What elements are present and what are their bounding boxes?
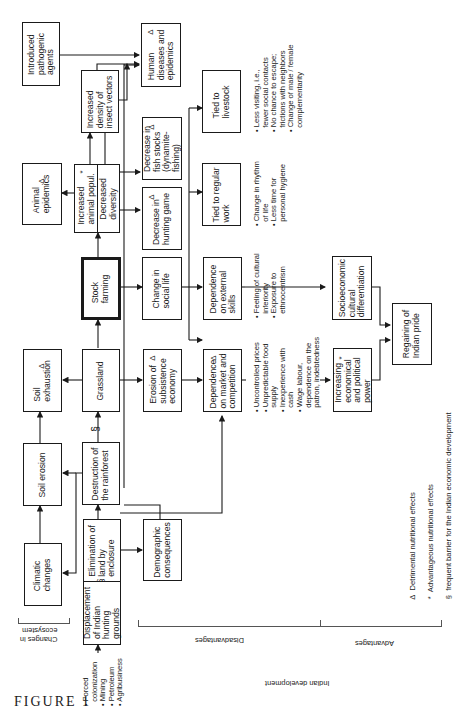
market-effects-note: • Uncontrolled prices • Unpredictable fo… (253, 337, 322, 412)
barrier-symbol-icon: § (444, 595, 453, 599)
node-displacement-hunting-grounds: Displacement of Indian hunting grounds (83, 581, 121, 645)
changes-in-ecosystem-label: Changes in ecosystem (20, 626, 57, 643)
node-dependence-market-competition: Dependence on market and competition Δ (203, 349, 242, 412)
node-soil-erosion: Soil erosion (23, 443, 62, 506)
detrimental-delta-icon: Δ (210, 355, 218, 360)
node-tied-to-regular-work: Tied to regular work (202, 163, 241, 226)
advantageous-star-icon: * (338, 356, 346, 359)
detrimental-delta-icon: Δ (149, 355, 157, 360)
node-soil-exhaustion: Soil exhaustion Δ (23, 349, 62, 412)
node-stock-farming: Stock farming (81, 257, 121, 320)
node-increased-animal-popul: Increased animal popul. * (74, 164, 98, 233)
node-change-social-life: Change in social life (142, 257, 182, 320)
node-tied-to-livestock: Tied to livestock (202, 70, 241, 133)
node-human-diseases-epidemics: Human diseases and epidemics Δ (141, 23, 181, 87)
node-increasing-economical-political-power: Increasing economical and political powe… (333, 348, 372, 412)
node-animal-epidemics: Animal epidemics Δ (22, 163, 62, 225)
bracket-tick (138, 620, 139, 627)
legend-item-barrier: § frequent barrier for the Indian econom… (436, 412, 462, 612)
node-climatic-changes: Climatic changes (24, 543, 62, 606)
node-elimination-land-enclosure: Elimination of land by enclosure (83, 519, 121, 581)
figure-label: FIGURE 1 (14, 694, 91, 709)
regular-work-effects-note: • Change in rhythm of life • Less time f… (253, 161, 287, 226)
detrimental-delta-icon: Δ (38, 363, 46, 368)
indian-development-bracket (138, 626, 442, 627)
detrimental-delta-icon: Δ (38, 178, 46, 183)
indian-development-label: Indian development (265, 679, 330, 688)
bracket-tick (320, 620, 321, 627)
detrimental-delta-icon: Δ (148, 124, 156, 129)
advantages-label: Advantages (355, 639, 394, 648)
bracket-tick (18, 618, 19, 624)
star-icon: * (426, 596, 435, 599)
bracket-tick (441, 620, 442, 627)
node-grassland: Grassland (82, 349, 120, 412)
barrier-symbol-icon: § (92, 426, 100, 432)
node-decreased-diversity: Decreased diversity (97, 164, 120, 233)
node-regaining-indian-pride: Regaining of Indian pride (392, 303, 432, 365)
node-decrease-fish-stocks: Decrease in fish stocks (dynamite- fishi… (142, 117, 182, 180)
node-dependence-external-skills: Dependence on external skills (203, 257, 242, 320)
external-skills-effects-note: • Feeling of cultural inferiority • Expo… (253, 253, 287, 318)
flow-diagram: Introduced pathogenic agents Animal epid… (0, 0, 462, 709)
advantageous-star-icon: * (79, 170, 87, 173)
livestock-effects-note: • Less visiting, i.e., fewer social cont… (253, 44, 305, 132)
detrimental-delta-icon: Δ (148, 194, 156, 199)
node-socioeconomic-differentiation: Socioeconomic cultural differentiation (332, 256, 372, 320)
node-introduced-pathogenic-agents: Introduced pathogenic agents (22, 22, 60, 86)
detrimental-delta-icon: Δ (147, 29, 155, 34)
node-demographic-consequences: Demographic consequences (143, 519, 182, 581)
bracket-tick (69, 618, 70, 624)
node-decrease-hunting-game: Decrease in hunting game Δ (142, 187, 182, 250)
delta-icon: Δ (408, 595, 417, 600)
node-destruction-rainforest: Destruction of the rainforest (82, 442, 120, 505)
node-increased-density-insect-vectors: Increased density of insect vectors (81, 70, 119, 133)
disadvantages-label: Disadvantages (195, 636, 244, 645)
node-erosion-subsistence-economy: Erosion of subsistence economy Δ (143, 349, 182, 412)
ecosystem-bracket (18, 623, 70, 624)
